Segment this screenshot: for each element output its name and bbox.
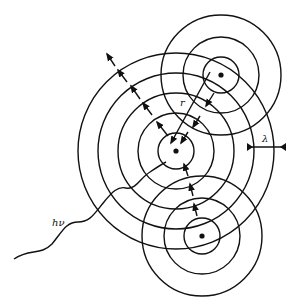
backscatter-arrows-top [171, 72, 214, 143]
top-scatterer-atom [218, 72, 223, 77]
exafs-scattering-diagram: hν r λ [0, 0, 293, 305]
wavelength-marker [247, 143, 286, 151]
distance-label: r [180, 97, 186, 108]
photon-label: hν [52, 217, 65, 228]
bottom-scatterer-atom [199, 233, 204, 238]
absorber-atom [173, 148, 178, 153]
wavelength-label: λ [261, 133, 268, 144]
